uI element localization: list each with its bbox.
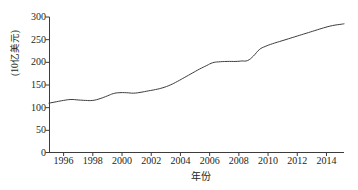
x-axis-title-text: 年份: [191, 171, 211, 182]
y-tick-label: 50: [4, 125, 46, 135]
y-tick-label: 300: [4, 12, 46, 22]
y-axis-tick-marks: [46, 17, 50, 153]
y-tick-label: 100: [4, 103, 46, 113]
chart-svg: [49, 17, 344, 153]
line-chart-figure: (10亿美元) 050100150200250300 1996199820002…: [0, 0, 358, 190]
x-axis-title: 年份: [0, 168, 358, 183]
y-tick-label: 150: [4, 80, 46, 90]
plot-area: [49, 17, 344, 153]
y-tick-label: 200: [4, 57, 46, 67]
y-tick-label: 250: [4, 35, 46, 45]
x-tick-label: 2014: [306, 155, 346, 166]
data-line-series: [49, 24, 344, 103]
x-axis-tick-labels: 1996199820002002200420062008201020122014: [0, 155, 358, 169]
